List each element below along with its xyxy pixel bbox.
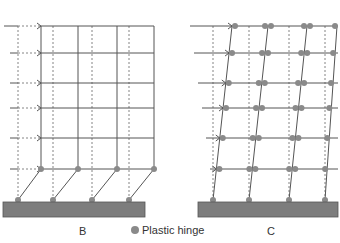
plastic-hinge-icon [220,135,226,141]
plastic-hinge-icon [75,166,81,172]
plastic-hinge-icon [262,80,268,86]
plastic-hinge-icon [246,166,252,172]
plastic-hinge-icon [293,105,299,111]
soft-storey-column [18,169,41,200]
leaning-column [213,26,232,200]
leaning-column [249,26,268,200]
plastic-hinge-icon [256,135,262,141]
plastic-hinge-icon [328,80,334,86]
figure-label-c: C [267,225,275,237]
plastic-hinge-icon [223,105,229,111]
plastic-hinge-icon [253,105,259,111]
plastic-hinge-icon [286,166,292,172]
plastic-hinge-icon [256,80,262,86]
plastic-hinge-icon [324,135,330,141]
plastic-hinge-icon [307,23,313,29]
plastic-hinge-icon [216,166,222,172]
plastic-hinge-icon [292,166,298,172]
plastic-hinge-icon [262,23,268,29]
plastic-hinge-icon [229,50,235,56]
ground-slab [198,202,338,217]
plastic-hinge-icon [131,226,139,234]
ground-slab [3,202,145,217]
plastic-hinge-icon [322,166,328,172]
plastic-hinge-icon [330,50,336,56]
soft-storey-column [92,169,117,200]
plastic-hinge-icon [259,105,265,111]
plastic-hinge-icon [151,166,157,172]
frame-c-beam-sway [190,23,338,217]
soft-storey-column [129,169,154,200]
legend: Plastic hinge [131,224,204,236]
figure-label-b: B [79,225,86,237]
plastic-hinge-icon [232,23,238,29]
leaning-column [289,26,307,200]
plastic-hinge-icon [114,166,120,172]
plastic-hinge-icon [259,50,265,56]
plastic-hinge-icon [332,23,338,29]
plastic-hinge-icon [289,135,295,141]
plastic-hinge-icon [298,50,304,56]
plastic-hinge-icon [38,166,44,172]
plastic-hinge-icon [304,50,310,56]
plastic-hinge-icon [301,23,307,29]
plastic-hinge-icon [326,105,332,111]
plastic-hinge-icon [299,105,305,111]
plastic-hinge-icon [301,80,307,86]
diagram-canvas [0,0,340,243]
plastic-hinge-icon [226,80,232,86]
frame-b-soft-storey [3,23,157,217]
plastic-hinge-icon [250,135,256,141]
plastic-hinge-icon [268,23,274,29]
legend-label: Plastic hinge [142,224,204,236]
plastic-hinge-icon [295,135,301,141]
plastic-hinge-icon [252,166,258,172]
plastic-hinge-icon [265,50,271,56]
plastic-hinge-icon [295,80,301,86]
soft-storey-column [53,169,78,200]
